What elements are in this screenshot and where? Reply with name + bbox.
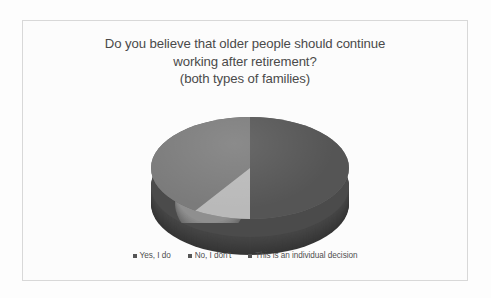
- legend-item-no-i-dont[interactable]: No, I don't: [188, 251, 232, 260]
- legend-item-label: No, I don't: [195, 251, 232, 260]
- chart-title-line-1: Do you believe that older people should …: [23, 35, 467, 53]
- chart-title: Do you believe that older people should …: [23, 35, 467, 88]
- legend-item-label: This is an individual decision: [255, 251, 357, 260]
- pie-top-face: [151, 117, 349, 219]
- legend-swatch-icon: [188, 254, 192, 258]
- chart-title-line-2: working after retirement?: [23, 53, 467, 71]
- chart-legend: Yes, I do No, I don't This is an individ…: [23, 251, 467, 260]
- chart-title-line-3: (both types of families): [23, 70, 467, 88]
- legend-swatch-icon: [133, 254, 137, 258]
- legend-item-yes-i-do[interactable]: Yes, I do: [133, 251, 171, 260]
- pie-chart: [151, 117, 351, 241]
- legend-swatch-icon: [248, 254, 252, 258]
- legend-item-label: Yes, I do: [140, 251, 171, 260]
- legend-item-this-is-an-individual-decision[interactable]: This is an individual decision: [248, 251, 357, 260]
- chart-frame: Do you believe that older people should …: [22, 20, 468, 281]
